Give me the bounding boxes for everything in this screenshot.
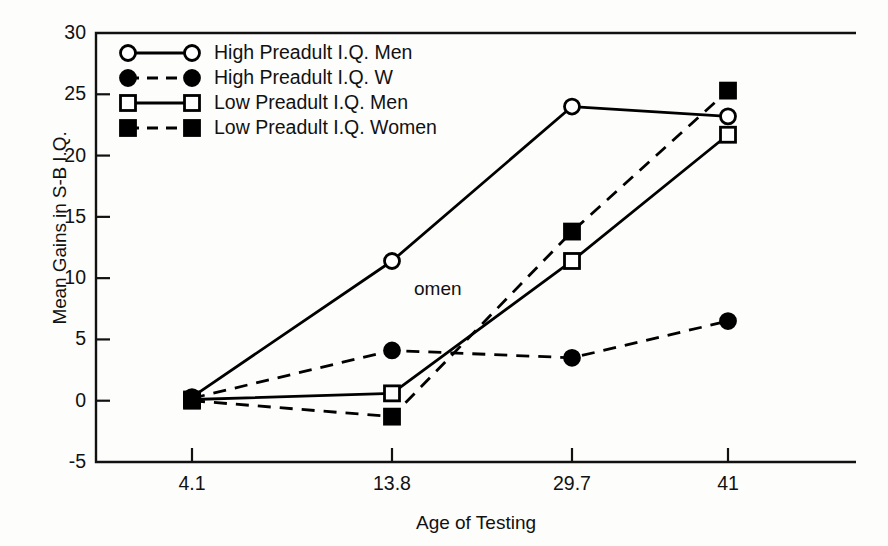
legend-item-label: Low Preadult I.Q. Men bbox=[214, 91, 408, 114]
data-point-marker bbox=[185, 393, 200, 408]
data-point-marker bbox=[385, 343, 400, 358]
series-line bbox=[192, 321, 728, 398]
legend-item[interactable]: Low Preadult I.Q. Men bbox=[118, 90, 448, 115]
legend-item[interactable]: High Preadult I.Q. W bbox=[118, 65, 448, 90]
data-point-marker bbox=[565, 99, 580, 114]
legend-key-circle-filled-icon bbox=[118, 66, 204, 90]
legend-key-square-filled-icon bbox=[118, 116, 204, 140]
data-point-marker bbox=[385, 253, 400, 268]
legend-key-square-open-icon bbox=[118, 91, 204, 115]
chart-figure: Mean Gains in S-B I.Q. 302520151050-5 4.… bbox=[0, 0, 888, 546]
legend-item[interactable]: High Preadult I.Q. Men bbox=[118, 40, 448, 65]
data-point-marker bbox=[385, 409, 400, 424]
legend-item[interactable]: Low Preadult I.Q. Women bbox=[118, 115, 448, 140]
legend-key-circle-open-icon bbox=[118, 41, 204, 65]
series-line bbox=[192, 135, 728, 400]
data-point-marker bbox=[565, 224, 580, 239]
chart-legend: High Preadult I.Q. MenHigh Preadult I.Q.… bbox=[118, 40, 448, 140]
plot-annotation: omen bbox=[414, 278, 462, 300]
legend-item-label: Low Preadult I.Q. Women bbox=[214, 116, 437, 139]
data-point-marker bbox=[721, 83, 736, 98]
data-point-marker bbox=[721, 127, 736, 142]
data-point-marker bbox=[385, 386, 400, 401]
data-point-marker bbox=[721, 109, 736, 124]
data-point-marker bbox=[565, 350, 580, 365]
data-point-marker bbox=[565, 253, 580, 268]
data-point-marker bbox=[721, 314, 736, 329]
legend-item-label: High Preadult I.Q. W bbox=[214, 66, 393, 89]
legend-item-label: High Preadult I.Q. Men bbox=[214, 41, 412, 64]
